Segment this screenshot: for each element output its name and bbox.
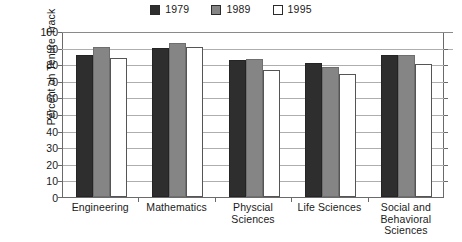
legend-item-1979: 1979	[150, 4, 189, 15]
y-tick-10: 10	[46, 176, 58, 187]
y-tick-100: 100	[40, 27, 58, 38]
x-label-mathematics: Mathematics	[138, 202, 214, 237]
ytick-mark-60	[58, 98, 62, 99]
legend-item-1989: 1989	[211, 4, 250, 15]
bar-mathematics-1979	[152, 48, 169, 197]
x-label-life-sciences: Life Sciences	[291, 202, 367, 237]
ytick-mark-30	[58, 148, 62, 149]
y-axis-tick-labels: 100 90 80 70 60 50 40 30 20 10 0	[28, 32, 58, 198]
plot-area	[62, 32, 444, 198]
ytick-mark-20	[58, 165, 62, 166]
bar-engineering-1989	[93, 47, 110, 197]
bar-life-sciences-1995	[339, 74, 356, 197]
y-tick-60: 60	[46, 93, 58, 104]
y-tick-40: 40	[46, 126, 58, 137]
bar-social-behavioral-1989	[398, 55, 415, 197]
legend-label-1989: 1989	[226, 4, 250, 15]
bar-social-behavioral-1979	[381, 55, 398, 197]
legend-swatch-1995	[273, 5, 283, 15]
ytick-mark-100	[58, 32, 62, 33]
y-tick-90: 90	[46, 43, 58, 54]
bar-physical-sciences-1989	[246, 59, 263, 197]
bar-social-behavioral-1995	[415, 64, 432, 197]
legend-label-1995: 1995	[288, 4, 312, 15]
ytick-mark-40	[58, 132, 62, 133]
y-tick-80: 80	[46, 60, 58, 71]
x-label-social-line3: Sciences	[369, 225, 443, 237]
y-axis-title-container: Percent on Tenure Track	[10, 32, 24, 198]
x-label-mathematics-line1: Mathematics	[139, 202, 213, 214]
legend-swatch-1979	[150, 5, 160, 15]
x-label-life-sciences-line1: Life Sciences	[292, 202, 366, 214]
bar-group-social-behavioral-sciences	[369, 31, 445, 197]
ytick-mark-0	[58, 197, 62, 198]
chart-legend: 1979 1989 1995	[0, 4, 462, 15]
bar-life-sciences-1989	[322, 67, 339, 197]
x-label-engineering-line1: Engineering	[63, 202, 137, 214]
y-tick-0: 0	[52, 193, 58, 204]
bar-group-life-sciences	[292, 31, 368, 197]
bar-physical-sciences-1995	[263, 70, 280, 197]
x-label-engineering: Engineering	[62, 202, 138, 237]
ytick-mark-80	[58, 65, 62, 66]
bar-mathematics-1989	[169, 43, 186, 197]
x-label-social-behavioral-sciences: Social and Behavioral Sciences	[368, 202, 444, 237]
bar-chart-figure: 1979 1989 1995 Percent on Tenure Track 1…	[0, 0, 462, 242]
legend-item-1995: 1995	[273, 4, 312, 15]
x-label-physical-sciences-line2: Sciences	[216, 214, 290, 226]
y-tick-30: 30	[46, 143, 58, 154]
x-label-physical-sciences: Physcial Sciences	[215, 202, 291, 237]
ytick-mark-10	[58, 181, 62, 182]
y-tick-70: 70	[46, 76, 58, 87]
bar-engineering-1995	[110, 58, 127, 197]
bar-group-mathematics	[139, 31, 215, 197]
bar-groups	[63, 31, 445, 197]
x-label-social-line1: Social and	[369, 202, 443, 214]
legend-label-1979: 1979	[165, 4, 189, 15]
bar-mathematics-1995	[186, 47, 203, 197]
ytick-mark-70	[58, 82, 62, 83]
bar-group-physical-sciences	[216, 31, 292, 197]
bar-life-sciences-1979	[305, 63, 322, 197]
bar-engineering-1979	[76, 55, 93, 197]
y-tick-20: 20	[46, 159, 58, 170]
legend-swatch-1989	[211, 5, 221, 15]
ytick-mark-50	[58, 115, 62, 116]
y-tick-50: 50	[46, 110, 58, 121]
x-label-physical-sciences-line1: Physcial	[216, 202, 290, 214]
ytick-mark-90	[58, 49, 62, 50]
bar-physical-sciences-1979	[229, 60, 246, 197]
bar-group-engineering	[63, 31, 139, 197]
x-axis-category-labels: Engineering Mathematics Physcial Science…	[62, 202, 444, 237]
